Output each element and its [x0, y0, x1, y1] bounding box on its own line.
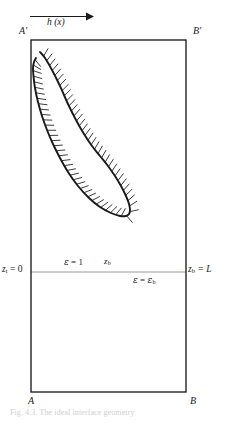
epsilon-upper-region-label: ε = 1	[64, 258, 83, 267]
z-top-axis-label: zt = 0	[2, 265, 22, 275]
z-bottom-axis-label: zb = L	[188, 265, 212, 275]
corner-label-a-prime: A′	[19, 26, 27, 36]
figure-container: A′ B′ A B h (x) zt = 0 zb = L ε = 1 zb ε…	[0, 0, 226, 424]
h-of-x-label: h (x)	[47, 18, 65, 28]
corner-label-b: B	[190, 396, 196, 406]
figure-caption: Fig. 4.3. The ideal interface geometry	[10, 409, 135, 417]
z-b-curve-point-label: zb	[104, 257, 111, 266]
interface-curve	[33, 52, 130, 216]
boundary-rectangle	[31, 40, 186, 392]
epsilon-lower-region-label: ε = εb	[133, 276, 155, 285]
corner-label-b-prime: B′	[193, 26, 201, 36]
figure-canvas	[0, 0, 226, 424]
corner-label-a: A	[28, 396, 34, 406]
